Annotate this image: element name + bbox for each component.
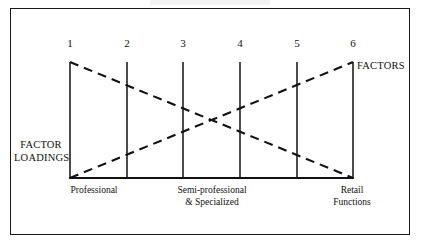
group-label-retail-functions-line-1: Retail bbox=[333, 185, 370, 197]
factor-loadings-line-1: FACTOR bbox=[14, 139, 68, 152]
axis-number-5: 5 bbox=[287, 38, 307, 49]
group-label-semi-professional: Semi-professional & Specialized bbox=[177, 185, 246, 208]
factor-loadings-line-2: LOADINGS bbox=[14, 152, 68, 165]
axis-number-4: 4 bbox=[230, 38, 250, 49]
group-label-semi-professional-line-2: & Specialized bbox=[177, 197, 246, 209]
group-label-professional: Professional bbox=[71, 185, 118, 197]
group-label-retail-functions-line-2: Functions bbox=[333, 197, 370, 209]
group-label-semi-professional-line-1: Semi-professional bbox=[177, 185, 246, 197]
axis-number-1: 1 bbox=[60, 38, 80, 49]
figure-container: 1 2 3 4 5 6 FACTORS FACTOR LOADINGS Prof… bbox=[0, 0, 421, 252]
axis-number-2: 2 bbox=[117, 38, 137, 49]
group-label-professional-line-1: Professional bbox=[71, 185, 118, 197]
factor-loadings-axis-title: FACTOR LOADINGS bbox=[14, 139, 68, 164]
factors-axis-title: FACTORS bbox=[357, 60, 405, 72]
axis-number-3: 3 bbox=[173, 38, 193, 49]
axis-number-6: 6 bbox=[343, 38, 363, 49]
group-label-retail-functions: Retail Functions bbox=[333, 185, 370, 208]
